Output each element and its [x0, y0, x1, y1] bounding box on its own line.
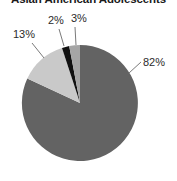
pie-chart-figure: Asian American Adolescents 82% 13% 2% 3% — [0, 0, 177, 181]
slice-label-3: 3% — [71, 13, 87, 24]
slice-label-2: 2% — [48, 15, 64, 26]
slice-label-82: 82% — [143, 57, 165, 68]
leader-line-13 — [32, 43, 44, 58]
slice-label-13: 13% — [13, 29, 35, 40]
leader-line-82 — [129, 62, 141, 73]
leader-line-3 — [75, 27, 76, 45]
leader-line-2 — [59, 29, 64, 46]
